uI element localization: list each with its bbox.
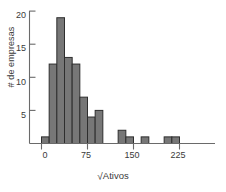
- histogram-bar: [118, 130, 126, 143]
- histogram-bar: [49, 64, 57, 143]
- histogram-bar: [95, 110, 103, 143]
- bars-group: [42, 18, 180, 144]
- x-axis-label-text: Ativos: [103, 170, 129, 181]
- histogram-bar: [42, 137, 50, 144]
- histogram-bar: [72, 64, 80, 143]
- histogram-bar: [164, 137, 172, 144]
- histogram-bar: [172, 137, 180, 144]
- histogram-figure: # de empresas 20 15 10 5 0 75 150 225 √A…: [0, 0, 226, 192]
- histogram-bar: [126, 137, 134, 144]
- histogram-bar: [88, 117, 96, 143]
- histogram-bar: [80, 97, 88, 143]
- plot-area: [0, 0, 226, 192]
- histogram-bar: [65, 57, 73, 143]
- histogram-bar: [57, 18, 65, 144]
- x-axis-label: √Ativos: [0, 170, 226, 182]
- histogram-bar: [141, 137, 149, 144]
